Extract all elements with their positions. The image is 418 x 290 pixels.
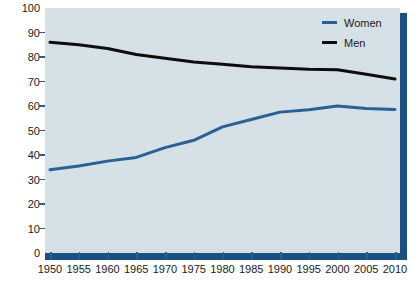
y-axis-tick-label: 100 xyxy=(0,3,40,14)
x-axis-tick-mark xyxy=(223,252,225,259)
legend-item-men: Men xyxy=(322,34,400,51)
legend-label: Women xyxy=(344,17,382,29)
x-axis-tick-mark xyxy=(50,252,52,259)
legend-swatch-icon xyxy=(322,21,337,25)
x-axis-tick-mark xyxy=(338,252,340,259)
x-axis-labels: 1950195519601965197019751980198519901995… xyxy=(0,263,418,283)
line-chart: 0102030405060708090100 19501955196019651… xyxy=(0,0,418,290)
legend-label: Men xyxy=(344,37,365,49)
legend-item-women: Women xyxy=(322,14,400,31)
y-axis-tick-label: 10 xyxy=(0,223,40,234)
y-axis-tick-label: 80 xyxy=(0,52,40,63)
x-axis-tick-mark xyxy=(136,252,138,259)
y-axis-tick-label: 20 xyxy=(0,199,40,210)
series-line-women xyxy=(50,106,395,170)
y-axis-tick-label: 50 xyxy=(0,125,40,136)
x-axis-tick-mark xyxy=(309,252,311,259)
x-axis-tick-mark xyxy=(108,252,110,259)
frame-right-edge xyxy=(400,13,407,260)
y-axis-tick-label: 30 xyxy=(0,174,40,185)
x-axis-tick-mark xyxy=(194,252,196,259)
y-axis-tick-label: 70 xyxy=(0,76,40,87)
y-axis-tick-label: 90 xyxy=(0,27,40,38)
x-axis-tick-mark xyxy=(165,252,167,259)
y-axis-tick-label: 60 xyxy=(0,101,40,112)
x-axis-tick-mark xyxy=(280,252,282,259)
x-axis-tick-mark xyxy=(79,252,81,259)
x-axis-tick-label: 2010 xyxy=(378,263,412,275)
legend-swatch-icon xyxy=(322,41,337,45)
x-axis-tick-mark xyxy=(366,252,368,259)
y-axis: 0102030405060708090100 xyxy=(0,0,40,260)
x-axis-ticks xyxy=(45,252,407,260)
y-axis-tick-label: 0 xyxy=(0,248,40,259)
x-axis-tick-mark xyxy=(395,252,397,259)
x-axis-tick-mark xyxy=(251,252,253,259)
y-axis-tick-label: 40 xyxy=(0,150,40,161)
chart-legend: WomenMen xyxy=(322,14,400,54)
